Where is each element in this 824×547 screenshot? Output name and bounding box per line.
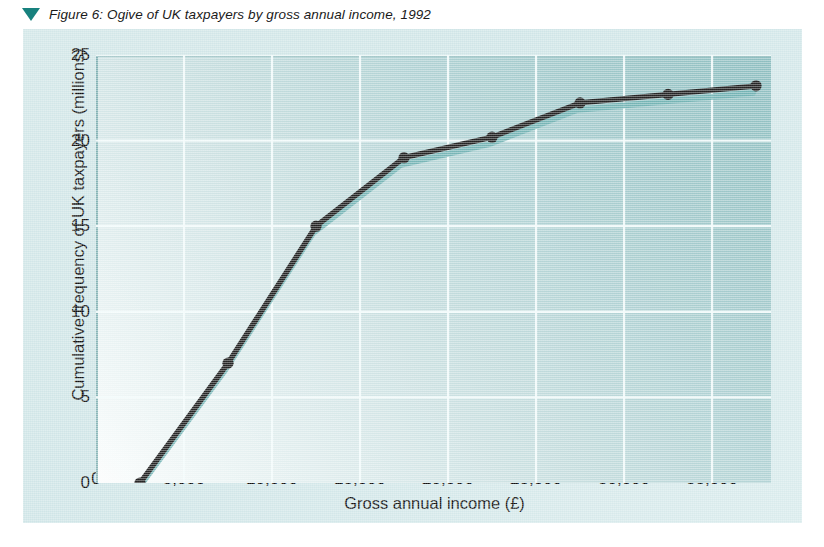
plot-area — [96, 55, 771, 483]
figure-panel: Cumulative frequency of UK taxpayers (mi… — [23, 29, 802, 523]
triangle-down-icon — [22, 8, 40, 21]
figure-caption-text: Figure 6: Ogive of UK taxpayers by gross… — [49, 7, 431, 22]
y-tick-label: 25 — [44, 45, 90, 65]
x-axis-title: Gross annual income (£) — [96, 494, 773, 513]
y-axis-tick-labels: 0510152025 — [38, 55, 90, 483]
ogive-line-chart — [96, 55, 771, 483]
figure-caption: Figure 6: Ogive of UK taxpayers by gross… — [0, 0, 824, 28]
y-tick-label: 10 — [44, 302, 90, 322]
series-shadow — [137, 93, 753, 483]
y-tick-label: 20 — [44, 131, 90, 151]
gridlines — [96, 55, 771, 483]
y-tick-label: 5 — [44, 387, 90, 407]
y-tick-label: 15 — [44, 216, 90, 236]
